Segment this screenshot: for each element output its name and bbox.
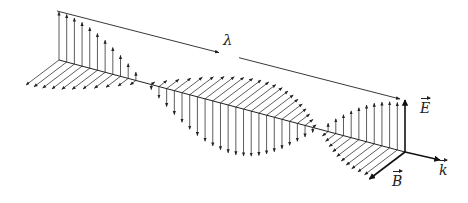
wavelength-arrow-right [239, 58, 400, 99]
wave-vector-symbol: k [439, 163, 447, 177]
wavelength-arrow-left [57, 11, 219, 53]
b-field-vector [290, 109, 307, 122]
k-vector-arrow [405, 152, 440, 160]
propagation-axis [59, 60, 405, 152]
b-field-vector [337, 140, 359, 157]
b-field-vector [182, 77, 202, 92]
b-field-vector [190, 77, 214, 95]
b-field-vector [167, 79, 179, 88]
wave-vector-label: k [439, 163, 447, 177]
electric-field-symbol: E [420, 101, 430, 115]
b-field-vector [297, 114, 309, 123]
b-field-vector [159, 81, 167, 87]
b-field-vector [83, 72, 105, 89]
b-field-vector [358, 148, 390, 172]
b-field-vector [326, 134, 336, 142]
b-field-vector [341, 142, 366, 161]
b-field-vector [26, 60, 59, 85]
b-field-vector [236, 82, 269, 107]
b-field-vector [151, 82, 154, 85]
wavelength-label: λ [223, 33, 233, 48]
electric-field-label: E [420, 101, 430, 115]
b-field-vector [244, 85, 276, 109]
b-field-vector [220, 78, 252, 102]
b-field-vector [118, 78, 128, 86]
b-field-vector [333, 138, 351, 152]
b-field-vector [228, 80, 261, 105]
b-field-vector [305, 119, 313, 125]
b-field-vector [174, 78, 191, 91]
b-field-vector [282, 104, 302, 119]
em-wave-diagram: λ E B k [0, 0, 468, 203]
magnetic-field-symbol: B [392, 174, 402, 188]
b-field-vector [94, 74, 112, 88]
b-field-vector [313, 125, 316, 128]
b-field-vector [322, 132, 328, 136]
b-field-vector [43, 64, 75, 88]
b-field-vector [130, 80, 136, 84]
magnetic-field-label: B [392, 174, 402, 188]
b-field-vector [274, 99, 298, 117]
b-field-vector [197, 77, 224, 97]
b-field-vector [267, 95, 294, 115]
magnetic-field-vectors [26, 60, 397, 175]
b-field-vector [34, 62, 67, 87]
b-field-vector [72, 70, 97, 89]
